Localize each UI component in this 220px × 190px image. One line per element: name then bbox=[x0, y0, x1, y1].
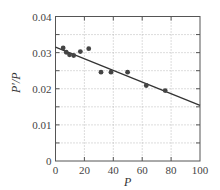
data-point bbox=[144, 83, 149, 88]
data-point bbox=[71, 53, 76, 58]
x-tick-label: 0 bbox=[53, 164, 59, 176]
x-tick-label: 80 bbox=[166, 164, 178, 176]
y-tick-label: 0.03 bbox=[32, 47, 52, 59]
x-tick-label: 100 bbox=[192, 164, 209, 176]
data-point bbox=[99, 70, 104, 75]
y-tick-label: 0.02 bbox=[32, 83, 51, 95]
data-point bbox=[78, 49, 83, 54]
y-tick-labels: 00.010.020.030.04 bbox=[32, 11, 52, 168]
fit-line bbox=[56, 47, 201, 105]
x-axis-label: P bbox=[123, 175, 132, 189]
data-point bbox=[109, 70, 114, 75]
y-axis-label: P′/P bbox=[9, 72, 23, 94]
grid-lines bbox=[56, 17, 201, 162]
y-tick-label: 0 bbox=[46, 155, 52, 167]
x-tick-label: 40 bbox=[108, 164, 120, 176]
x-tick-label: 60 bbox=[137, 164, 149, 176]
data-point bbox=[61, 46, 66, 51]
x-tick-label: 20 bbox=[79, 164, 91, 176]
y-tick-label: 0.04 bbox=[32, 11, 52, 23]
data-point bbox=[163, 88, 168, 93]
data-point bbox=[67, 52, 72, 57]
data-point bbox=[86, 46, 91, 51]
data-point bbox=[125, 70, 130, 75]
y-tick-label: 0.01 bbox=[32, 119, 51, 131]
scatter-chart: 020406080100 00.010.020.030.04 P P′/P bbox=[0, 0, 220, 190]
